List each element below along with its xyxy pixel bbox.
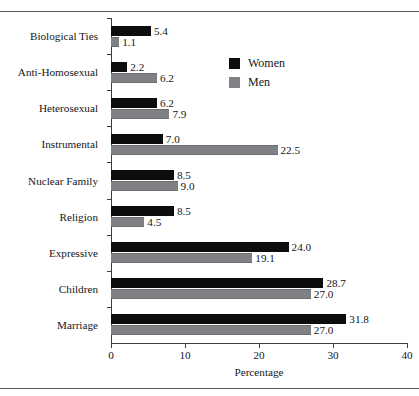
y-axis-tick <box>107 90 111 91</box>
y-axis-tick <box>107 235 111 236</box>
bar-women-children <box>111 278 323 288</box>
bar-men-nuclear-family <box>111 181 178 191</box>
bar-value-label: 27.0 <box>314 324 334 336</box>
bar-value-label: 1.1 <box>122 36 136 48</box>
bar-men-children <box>111 289 311 299</box>
legend-item-label: Women <box>248 56 285 71</box>
bar-men-instrumental <box>111 145 278 155</box>
bar-value-label: 9.0 <box>181 180 195 192</box>
y-axis-tick-label: Heterosexual <box>0 102 98 114</box>
bar-men-marriage <box>111 325 311 335</box>
y-axis-tick-label: Children <box>0 283 98 295</box>
x-axis-tick <box>333 343 334 348</box>
bar-men-expressive <box>111 253 252 263</box>
y-axis-tick-label: Religion <box>0 211 98 223</box>
bar-value-label: 7.9 <box>172 108 186 120</box>
bar-value-label: 5.4 <box>154 25 168 37</box>
x-axis-tick-label: 40 <box>387 349 419 361</box>
x-axis-tick <box>111 343 112 348</box>
x-axis-tick <box>259 343 260 348</box>
x-axis-tick <box>185 343 186 348</box>
figure-caption-fragment <box>8 0 308 3</box>
y-axis-tick-label: Instrumental <box>0 138 98 150</box>
legend-swatch-women <box>229 58 240 69</box>
y-axis-tick-label: Biological Ties <box>0 30 98 42</box>
y-axis-tick-label: Nuclear Family <box>0 175 98 187</box>
bar-value-label: 24.0 <box>292 241 312 253</box>
y-axis-tick <box>107 54 111 55</box>
x-axis-tick-label: 20 <box>239 349 279 361</box>
bar-value-label: 8.5 <box>177 205 191 217</box>
x-axis-tick-label: 10 <box>165 349 205 361</box>
figure-bottom-rule <box>0 388 419 389</box>
figure-top-rule <box>0 11 419 12</box>
bar-men-anti-homosexual <box>111 73 157 83</box>
legend-swatch-men <box>229 77 240 88</box>
bar-value-label: 4.5 <box>147 216 161 228</box>
x-axis-tick-label: 0 <box>91 349 131 361</box>
y-axis-tick <box>107 18 111 19</box>
bar-value-label: 6.2 <box>160 72 174 84</box>
bar-women-instrumental <box>111 134 163 144</box>
bar-women-expressive <box>111 242 289 252</box>
y-axis-tick <box>107 271 111 272</box>
legend-item: Men <box>229 73 339 92</box>
bar-women-biological-ties <box>111 26 151 36</box>
bar-value-label: 31.8 <box>349 313 369 325</box>
bar-value-label: 22.5 <box>281 144 301 156</box>
y-axis-tick-label: Expressive <box>0 247 98 259</box>
y-axis-category-labels: Biological TiesAnti-HomosexualHeterosexu… <box>0 18 104 343</box>
y-axis-tick <box>107 162 111 163</box>
x-axis-tick <box>407 343 408 348</box>
legend-item-label: Men <box>248 75 270 90</box>
bar-men-religion <box>111 217 144 227</box>
bar-value-label: 19.1 <box>255 252 275 264</box>
chart-legend: WomenMen <box>229 54 339 92</box>
bar-men-biological-ties <box>111 37 119 47</box>
figure-container: Biological TiesAnti-HomosexualHeterosexu… <box>0 0 419 396</box>
bar-men-heterosexual <box>111 109 169 119</box>
bar-value-label: 2.2 <box>130 61 144 73</box>
bar-women-heterosexual <box>111 98 157 108</box>
y-axis-tick <box>107 199 111 200</box>
bar-value-label: 7.0 <box>166 133 180 145</box>
y-axis-tick <box>107 307 111 308</box>
bar-women-nuclear-family <box>111 170 174 180</box>
legend-item: Women <box>229 54 339 73</box>
y-axis-tick-label: Anti-Homosexual <box>0 66 98 78</box>
y-axis-tick <box>107 126 111 127</box>
bar-women-marriage <box>111 314 346 324</box>
x-axis-title: Percentage <box>111 366 407 378</box>
chart-plot-area: Biological TiesAnti-HomosexualHeterosexu… <box>0 18 419 358</box>
bar-value-label: 27.0 <box>314 288 334 300</box>
bar-women-anti-homosexual <box>111 62 127 72</box>
x-axis-tick-label: 30 <box>313 349 353 361</box>
bar-women-religion <box>111 206 174 216</box>
y-axis-tick-label: Marriage <box>0 319 98 331</box>
